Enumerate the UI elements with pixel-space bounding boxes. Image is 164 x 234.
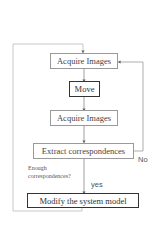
decision-question-line-1: Enough <box>28 164 71 172</box>
decision-question-line-2: correspondences? <box>28 172 71 180</box>
move-box: Move <box>69 81 100 97</box>
flowchart-diagram: Acquire Images Move Acquire Images Extra… <box>0 0 164 234</box>
decision-question-label: Enough correspondences? <box>28 164 71 180</box>
acquire-images-box-1: Acquire Images <box>50 53 118 69</box>
no-label: No <box>138 155 148 164</box>
extract-correspondences-box: Extract correspondences <box>33 143 134 159</box>
yes-label: yes <box>91 180 103 189</box>
acquire-images-box-2: Acquire Images <box>50 110 118 126</box>
modify-system-model-box: Modify the system model <box>27 193 139 208</box>
